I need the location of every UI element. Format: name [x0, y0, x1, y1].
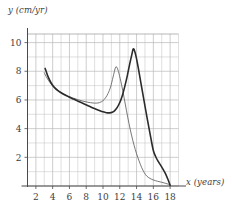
grid-lines [28, 34, 179, 186]
svg-text:12: 12 [114, 192, 125, 202]
svg-text:8: 8 [83, 192, 89, 202]
plot-canvas: 24681012141618246810 [0, 0, 232, 221]
svg-text:18: 18 [164, 192, 176, 202]
svg-text:8: 8 [16, 66, 22, 76]
tick-marks [25, 43, 171, 189]
svg-text:2: 2 [33, 192, 39, 202]
svg-text:4: 4 [16, 124, 22, 134]
tick-labels: 24681012141618246810 [10, 38, 176, 202]
curve-thick-curve [45, 49, 170, 185]
svg-text:10: 10 [97, 192, 109, 202]
svg-text:6: 6 [16, 95, 22, 105]
growth-rate-figure: y (cm/yr) x (years) 24681012141618246810 [0, 0, 232, 221]
svg-text:4: 4 [50, 192, 56, 202]
svg-text:14: 14 [131, 192, 143, 202]
svg-text:6: 6 [67, 192, 73, 202]
svg-text:10: 10 [10, 38, 22, 48]
data-curves [44, 49, 170, 185]
curve-thin-curve [44, 67, 170, 185]
svg-text:2: 2 [16, 153, 22, 163]
axis-lines [22, 28, 187, 187]
svg-text:16: 16 [148, 192, 160, 202]
